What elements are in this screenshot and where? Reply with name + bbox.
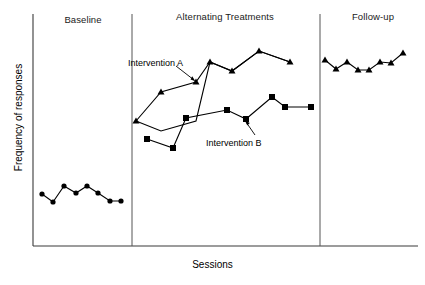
series-baseline — [39, 183, 123, 204]
chart-figure: Baseline Alternating Treatments Follow-u… — [0, 0, 425, 285]
phase-title-followup: Follow-up — [340, 11, 406, 22]
annotation-a-arrowhead — [191, 76, 196, 81]
annotation-a-leader — [176, 66, 194, 80]
annotation-intervention-a: Intervention A — [128, 58, 183, 68]
series-followup — [322, 49, 407, 72]
phase-title-alternating-treatments: Alternating Treatments — [160, 11, 290, 22]
x-axis-label: Sessions — [0, 259, 425, 270]
phase-title-baseline: Baseline — [52, 14, 114, 25]
annotation-intervention-b: Intervention B — [206, 138, 262, 148]
series-baseline-markers — [39, 183, 123, 204]
y-axis-label: Frequency of responses — [13, 43, 24, 193]
